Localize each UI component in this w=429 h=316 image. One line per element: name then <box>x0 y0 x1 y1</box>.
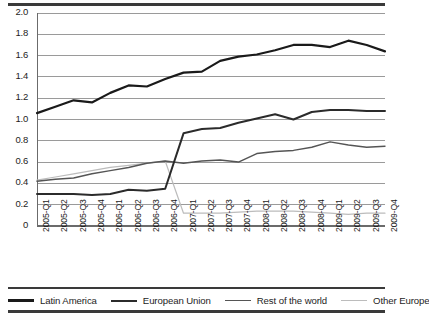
y-axis-tick-label: 0 <box>2 219 28 230</box>
x-axis-tick-label: 2006-Q2 <box>133 199 143 232</box>
x-axis-tick-label: 2006-Q4 <box>169 199 179 232</box>
x-axis-tick-label: 2007-Q3 <box>224 199 234 232</box>
x-axis-tick-label: 2009-Q1 <box>334 199 344 232</box>
legend-label: Other Europe <box>373 295 429 306</box>
y-axis-tick-label: 0.4 <box>2 176 28 187</box>
legend-line-swatch <box>341 300 367 301</box>
chart-legend: Latin AmericaEuropean UnionRest of the w… <box>8 291 385 310</box>
x-axis-tick-label: 2005-Q3 <box>78 199 88 232</box>
x-axis-tick-label: 2005-Q1 <box>41 199 51 232</box>
series-lines <box>37 41 385 215</box>
legend-line-swatch <box>111 300 137 302</box>
y-axis-tick-label: 1.2 <box>2 91 28 102</box>
series-line <box>37 110 385 195</box>
legend-label: Latin America <box>40 295 97 306</box>
x-axis-tick-label: 2009-Q2 <box>352 199 362 232</box>
y-axis-tick-label: 1.4 <box>2 70 28 81</box>
y-axis-tick-label: 1.8 <box>2 27 28 38</box>
y-axis-tick-label: 1.6 <box>2 49 28 60</box>
legend-item[interactable]: Other Europe <box>341 295 429 306</box>
x-axis-tick-label: 2009-Q4 <box>389 199 399 232</box>
x-axis-tick-label: 2008-Q4 <box>316 199 326 232</box>
x-axis-tick-label: 2006-Q1 <box>114 199 124 232</box>
legend-label: European Union <box>143 295 211 306</box>
legend-item[interactable]: European Union <box>111 295 211 306</box>
x-axis-tick-label: 2008-Q1 <box>261 199 271 232</box>
y-axis-tick-label: 0.8 <box>2 134 28 145</box>
legend-line-swatch <box>225 300 251 302</box>
y-axis-tick-label: 2.0 <box>2 6 28 17</box>
x-axis-tick-label: 2007-Q1 <box>188 199 198 232</box>
y-axis-tick-label: 0.6 <box>2 155 28 166</box>
legend-line-swatch <box>8 299 34 301</box>
x-axis-tick-label: 2006-Q3 <box>151 199 161 232</box>
x-axis-tick-label: 2005-Q4 <box>96 199 106 232</box>
legend-divider-top <box>8 287 385 289</box>
x-axis-tick-label: 2008-Q2 <box>279 199 289 232</box>
y-axis-tick-label: 1.0 <box>2 113 28 124</box>
legend-divider-bottom <box>8 310 385 313</box>
legend-label: Rest of the world <box>257 295 327 306</box>
series-line <box>37 142 385 181</box>
x-axis-tick-label: 2007-Q2 <box>206 199 216 232</box>
x-axis-tick-label: 2007-Q4 <box>242 199 252 232</box>
legend-item[interactable]: Rest of the world <box>225 295 327 306</box>
x-axis-tick-label: 2009-Q3 <box>371 199 381 232</box>
x-axis-tick-label: 2005-Q2 <box>59 199 69 232</box>
x-axis-tick-label: 2008-Q3 <box>297 199 307 232</box>
legend-item[interactable]: Latin America <box>8 295 97 306</box>
y-axis-tick-label: 0.2 <box>2 198 28 209</box>
